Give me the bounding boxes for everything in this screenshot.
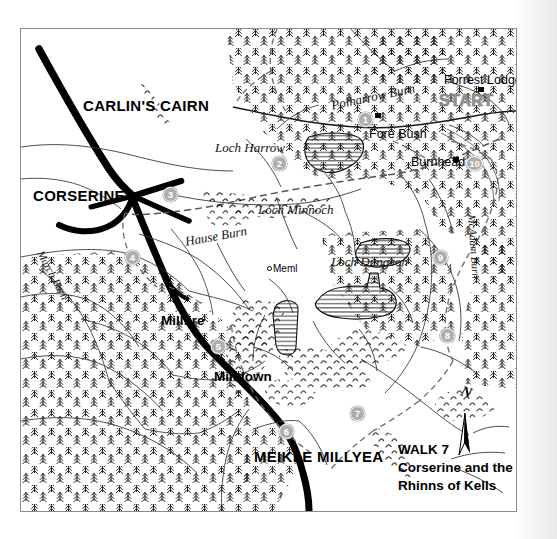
label-milldown: Milldown — [214, 370, 272, 384]
label-millfire: Millfire — [161, 314, 205, 328]
route-marker-label: 2 — [277, 158, 282, 169]
route-marker-8[interactable]: 8 — [440, 328, 455, 343]
route-marker-6[interactable]: 6 — [279, 424, 294, 439]
route-marker-10[interactable]: 10 — [466, 156, 483, 171]
label-forrest-lodge: Forrest Lodge — [444, 74, 517, 87]
route-marker-4[interactable]: 4 — [125, 250, 140, 265]
route-marker-label: 6 — [284, 426, 289, 437]
route-marker-label: 9 — [438, 252, 443, 263]
route-marker-9[interactable]: 9 — [433, 250, 448, 265]
walk-title-block: WALK 7 Corserine and the Rhinns of Kells — [398, 441, 513, 496]
label-corserine: CORSERINE — [33, 188, 125, 203]
route-marker-3[interactable]: 3 — [163, 187, 178, 202]
route-marker-label: 10 — [469, 158, 480, 169]
walk-title-line-1: Corserine and the — [398, 459, 513, 477]
route-marker-label: 3 — [168, 189, 173, 200]
memorial-symbol — [267, 266, 272, 271]
label-loch-harrow: Loch Harrow — [215, 141, 285, 154]
label-meml: Meml — [273, 264, 297, 274]
route-marker-label: 4 — [130, 252, 135, 263]
forrest-lodge-building-symbol — [478, 87, 484, 92]
label-start: START — [439, 93, 494, 109]
map-frame: CARLIN'S CAIRN CORSERINE MEIKLE MILLYEA … — [20, 28, 517, 512]
route-marker-2[interactable]: 2 — [272, 156, 287, 171]
burnhead-building-symbol — [453, 157, 459, 162]
fore-bush-building-symbol — [375, 113, 381, 118]
screenshot-root: CARLIN'S CAIRN CORSERINE MEIKLE MILLYEA … — [0, 0, 557, 539]
label-fore-bush: Fore Bush — [369, 128, 427, 141]
label-loch-minnoch: Loch Minnoch — [258, 203, 333, 216]
route-marker-1[interactable]: 1 — [358, 112, 373, 127]
route-marker-7[interactable]: 7 — [350, 406, 365, 421]
route-marker-label: 8 — [445, 330, 450, 341]
label-loch-dungeon: Loch Dungeon — [331, 255, 408, 268]
route-marker-label: 1 — [363, 114, 368, 125]
route-marker-label: 5 — [216, 341, 221, 352]
label-meikle-millyea: MEIKLE MILLYEA — [254, 449, 384, 464]
walk-title-line-2: Rhinns of Kells — [398, 477, 513, 495]
walk-number: WALK 7 — [398, 441, 513, 459]
label-carlins-cairn: CARLIN'S CAIRN — [83, 98, 209, 113]
route-marker-5[interactable]: 5 — [211, 339, 226, 354]
route-marker-label: 7 — [355, 408, 360, 419]
